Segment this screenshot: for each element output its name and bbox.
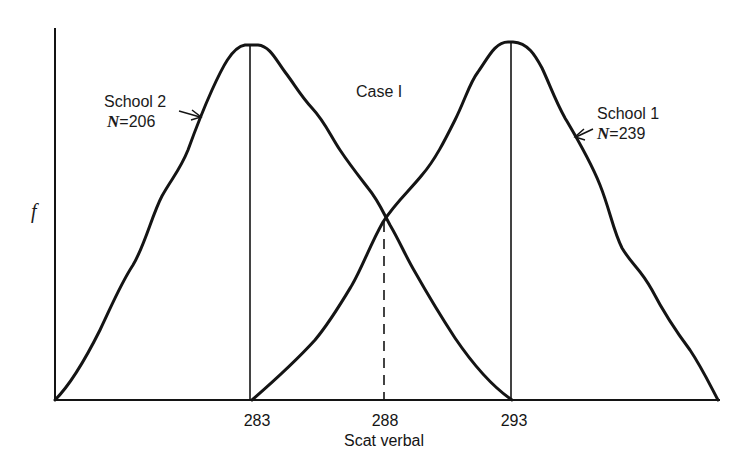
school2-name-label: School 2 [104,94,166,110]
school1-curve [252,42,718,400]
school1-n-symbol: N [597,124,609,143]
x-tick-283: 283 [244,412,271,430]
school1-n-value: =239 [609,125,645,142]
school1-n-label: N=239 [597,125,645,142]
x-axis-label: Scat verbal [344,432,424,450]
school1-name-label: School 1 [597,106,659,122]
case-label: Case I [356,84,402,100]
x-tick-293: 293 [501,412,528,430]
x-tick-288: 288 [372,412,399,430]
school2-n-value: =206 [119,113,155,130]
frequency-chart [0,0,745,470]
school2-n-label: N=206 [107,113,155,130]
school2-n-symbol: N [107,112,119,131]
school1-arrow-icon [575,129,593,140]
school2-arrow-icon [179,110,201,120]
y-axis-label: f [31,200,37,223]
